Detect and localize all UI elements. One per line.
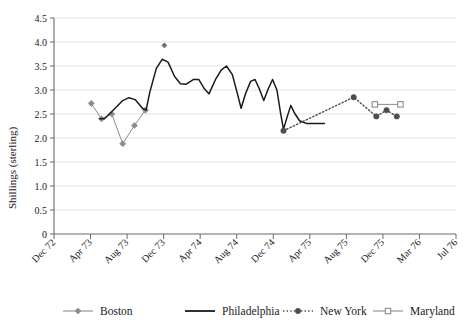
y-tick-label: 1.0 — [35, 181, 48, 192]
x-tick-label: Dec 72 — [29, 237, 57, 265]
y-tick-label: 3.0 — [35, 85, 48, 96]
data-marker-circle — [374, 114, 379, 119]
x-tick-label: Apr 75 — [286, 237, 314, 265]
y-tick-label: 2.0 — [35, 133, 48, 144]
data-marker-circle — [295, 308, 300, 313]
legend-item-new-york[interactable]: New York — [283, 305, 367, 317]
y-tick-label: 2.5 — [35, 109, 48, 120]
x-tick-label: Mar 76 — [394, 237, 422, 265]
x-tick-label: Aug 75 — [321, 237, 350, 266]
y-tick-label: 0.5 — [35, 205, 48, 216]
series-line — [100, 59, 325, 129]
x-tick-label: Apr 74 — [176, 237, 204, 265]
y-tick-label: 4.5 — [35, 13, 48, 24]
data-marker-circle — [384, 107, 389, 112]
data-marker-circle — [394, 114, 399, 119]
data-marker-diamond — [88, 100, 94, 106]
series-philadelphia — [100, 43, 325, 130]
legend-item-boston[interactable]: Boston — [63, 305, 133, 317]
legend-item-maryland[interactable]: Maryland — [373, 305, 455, 318]
x-tick-label: Jul 76 — [435, 237, 460, 262]
x-tick-label: Dec 73 — [139, 237, 167, 265]
legend-label: Philadelphia — [222, 305, 280, 318]
y-tick-label: 3.5 — [35, 61, 48, 72]
x-tick-label: Dec 74 — [249, 237, 277, 265]
x-tick-label: Apr 73 — [66, 237, 94, 265]
series-boston — [88, 100, 148, 147]
data-marker-diamond — [75, 308, 81, 314]
chart-legend: BostonPhiladelphiaNew YorkMaryland — [63, 305, 455, 318]
legend-label: New York — [320, 305, 367, 317]
y-tick-label: 1.5 — [35, 157, 48, 168]
x-tick-label: Aug 73 — [102, 237, 131, 266]
price-line-chart: 00.51.01.52.02.53.03.54.04.5 Dec 72Apr 7… — [0, 0, 475, 333]
data-marker-square — [385, 308, 390, 313]
y-tick-label: 4.0 — [35, 37, 48, 48]
isolated-data-point — [162, 43, 167, 48]
data-marker-diamond — [120, 141, 126, 147]
x-tick-label: Aug 74 — [211, 237, 240, 266]
y-axis: 00.51.01.52.02.53.03.54.04.5 — [35, 13, 55, 240]
data-marker-circle — [281, 128, 286, 133]
chart-page: 00.51.01.52.02.53.03.54.04.5 Dec 72Apr 7… — [0, 0, 475, 333]
legend-label: Boston — [100, 305, 133, 317]
data-marker-diamond — [131, 122, 137, 128]
legend-item-philadelphia[interactable]: Philadelphia — [185, 305, 280, 318]
data-marker-square — [398, 102, 403, 107]
series-maryland — [372, 102, 403, 107]
y-axis-title: Shillings (sterling) — [6, 127, 19, 210]
x-axis: Dec 72Apr 73Aug 73Dec 73Apr 74Aug 74Dec … — [29, 234, 459, 265]
data-marker-square — [372, 102, 377, 107]
data-series — [88, 43, 403, 147]
x-tick-label: Dec 75 — [358, 237, 386, 265]
data-marker-circle — [351, 95, 356, 100]
legend-label: Maryland — [410, 305, 455, 318]
y-tick-label: 0 — [42, 229, 47, 240]
